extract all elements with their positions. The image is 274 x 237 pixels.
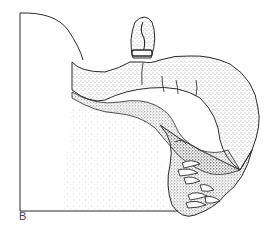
ligature-band [132,50,152,56]
anatomical-illustration [0,0,274,237]
panel-label: B [19,210,26,222]
ligated-loop [131,17,155,58]
